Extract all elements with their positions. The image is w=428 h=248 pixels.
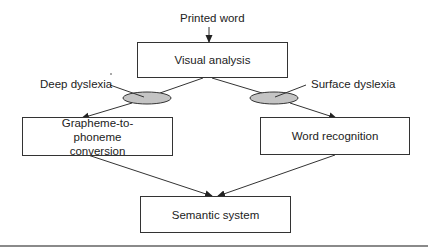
node-semantic-system-label: Semantic system [172, 208, 260, 222]
node-grapheme-to-phoneme: Grapheme-to-phoneme conversion [22, 117, 173, 156]
bottom-rule [0, 245, 428, 247]
edge-visual-to-deep [160, 78, 203, 93]
node-word-recognition: Word recognition [260, 117, 410, 155]
edge-grapheme-to-semantic [88, 155, 212, 196]
lesion-ellipse-deep [123, 92, 171, 104]
edge-word-to-semantic [218, 155, 335, 196]
input-label-printed-word: Printed word [180, 12, 245, 24]
edge-visual-to-surface [212, 78, 262, 93]
node-visual-analysis: Visual analysis [137, 42, 288, 78]
node-grapheme-to-phoneme-label: Grapheme-to-phoneme conversion [47, 116, 148, 158]
node-visual-analysis-label: Visual analysis [175, 53, 251, 67]
label-deep-dyslexia: Deep dyslexia [40, 78, 112, 90]
node-word-recognition-label: Word recognition [292, 129, 379, 143]
label-surface-dyslexia: Surface dyslexia [311, 78, 395, 90]
edge-surface-to-word [290, 103, 336, 118]
node-semantic-system: Semantic system [140, 196, 291, 233]
lesion-ellipse-surface [250, 92, 298, 104]
